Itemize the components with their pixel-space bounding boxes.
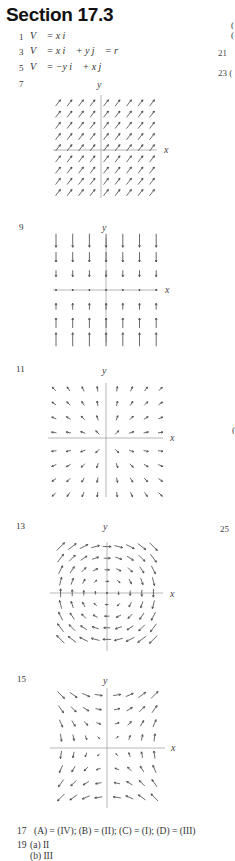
problem-number: 17 [17,826,27,836]
x-axis-label: x [170,588,174,599]
problem-number: 13 [16,521,25,531]
y-axis-label: y [102,365,106,376]
problem-number: 15 [17,674,26,684]
x-axis-label: x [165,284,169,295]
problem-answer: (A) = (IV); (B) = (II); (C) = (I); (D) =… [34,826,196,836]
problem-answer-19b: (b) III [30,851,53,861]
y-axis-label: y [103,675,107,686]
x-axis-label: x [171,742,175,753]
y-axis-label: y [102,222,106,233]
problem-number: 9 [19,222,24,232]
problem-number: 11 [16,364,25,374]
y-axis-label: y [103,521,107,532]
problem-number: 19 [17,840,27,850]
vector-field-plot-7 [0,0,235,861]
problem-answer: (a) II [30,840,49,850]
x-axis-label: x [170,432,174,443]
